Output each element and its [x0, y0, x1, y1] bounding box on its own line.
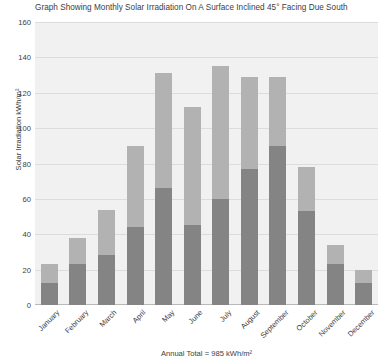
bar-segment-upper — [327, 245, 344, 264]
bar-segment-lower — [298, 211, 315, 305]
bar-segment-lower — [98, 255, 115, 305]
bar-segment-lower — [327, 264, 344, 305]
solar-irradiation-chart: Graph Showing Monthly Solar Irradiation … — [0, 0, 379, 358]
bar-september[interactable] — [269, 77, 286, 305]
bar-segment-upper — [355, 270, 372, 283]
bar-segment-upper — [212, 66, 229, 199]
bar-april[interactable] — [127, 146, 144, 305]
y-tick-label: 20 — [3, 265, 31, 274]
bar-october[interactable] — [298, 167, 315, 305]
bar-february[interactable] — [69, 238, 86, 305]
bar-segment-upper — [298, 167, 315, 211]
bar-segment-lower — [269, 146, 286, 305]
bars-layer — [35, 22, 378, 305]
annual-total-annotation: Annual Total = 985 kWh/m² — [35, 349, 378, 358]
y-tick-label: 100 — [3, 124, 31, 133]
bar-segment-lower — [155, 188, 172, 305]
bar-segment-upper — [41, 264, 58, 283]
y-tick-label: 140 — [3, 53, 31, 62]
bar-segment-upper — [241, 77, 258, 169]
bar-november[interactable] — [327, 245, 344, 305]
bar-july[interactable] — [212, 66, 229, 305]
bar-segment-upper — [269, 77, 286, 146]
bar-segment-lower — [212, 199, 229, 305]
y-tick-label: 80 — [3, 159, 31, 168]
chart-title: Graph Showing Monthly Solar Irradiation … — [35, 3, 379, 12]
bar-segment-upper — [155, 73, 172, 188]
bar-segment-lower — [184, 225, 201, 305]
bar-segment-lower — [241, 169, 258, 305]
bar-december[interactable] — [355, 270, 372, 305]
bar-segment-upper — [98, 210, 115, 256]
bar-segment-lower — [41, 283, 58, 305]
y-tick-label: 40 — [3, 230, 31, 239]
bar-august[interactable] — [241, 77, 258, 305]
bar-segment-upper — [69, 238, 86, 265]
bar-january[interactable] — [41, 264, 58, 305]
y-tick-label: 60 — [3, 194, 31, 203]
y-tick-label: 120 — [3, 88, 31, 97]
bar-may[interactable] — [155, 73, 172, 305]
bar-segment-upper — [127, 146, 144, 227]
y-axis-ticks: 160140120100806040200 — [0, 0, 31, 358]
y-tick-label: 0 — [3, 301, 31, 310]
bar-march[interactable] — [98, 210, 115, 306]
y-tick-label: 160 — [3, 18, 31, 27]
bar-segment-lower — [69, 264, 86, 305]
bar-segment-lower — [127, 227, 144, 305]
bar-segment-lower — [355, 283, 372, 305]
bar-segment-upper — [184, 107, 201, 226]
bar-june[interactable] — [184, 107, 201, 305]
x-axis-ticks: JanuaryFebruaryMarchAprilMayJuneJulyAugu… — [35, 306, 378, 352]
